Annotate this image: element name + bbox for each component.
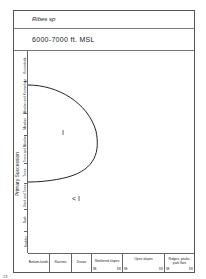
distribution-curve: I < I [28, 51, 194, 253]
habitat-draws: Draws [72, 254, 92, 272]
succession-axis: Primary Succession Krummholz Meadow and … [14, 51, 28, 253]
species-title: Ribes sp [32, 16, 55, 22]
elevation-row: 6000-7000 ft. MSL [14, 29, 194, 51]
habitat-ridges: Ridges, peaks, park flats NE SW [165, 254, 194, 272]
plot-area: I < I [28, 51, 194, 253]
region-label-below: < I [72, 195, 80, 202]
habitat-sheltered-slopes: Sheltered slopes NE SW [92, 254, 123, 272]
species-row: Ribes sp [14, 11, 194, 29]
region-label-inside: I [62, 129, 64, 136]
habitat-axis: Bottom-lands Ravines Draws Sheltered slo… [28, 253, 194, 272]
chart-frame: Ribes sp 6000-7000 ft. MSL Primary Succe… [13, 10, 195, 273]
habitat-bottomlands: Bottom-lands [28, 254, 50, 272]
elevation-label: 6000-7000 ft. MSL [32, 36, 95, 43]
page-number: 23 [3, 274, 7, 279]
habitat-ravines: Ravines [50, 254, 72, 272]
habitat-open-slopes: Open slopes NE SW [123, 254, 165, 272]
